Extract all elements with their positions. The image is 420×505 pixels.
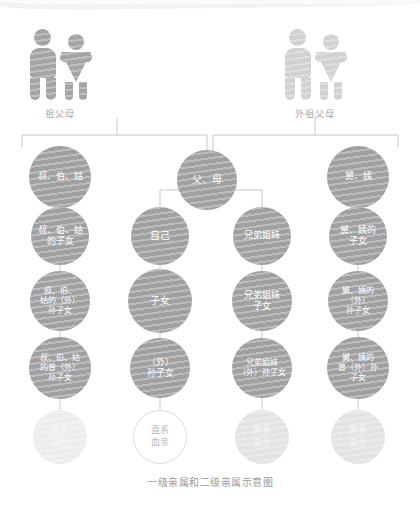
legend-node-label: 旁系血亲 [253,425,271,448]
legend-node: 直系血亲 [133,410,187,464]
relationship-node-label: 子女 [147,295,173,308]
legend-node: 旁系血亲 [235,410,289,464]
legend-node-label: 旁系血亲 [51,425,69,448]
man-icon [285,29,311,100]
relationship-node-label: （外）孙子女 [144,357,177,380]
relationship-node-label: 舅、姨的子女 [337,225,379,248]
relationship-node-label: 舅、姨 [342,171,375,182]
relationship-node: （外）孙子女 [130,338,190,398]
woman-icon [61,34,91,100]
legend-node-label: 旁系血亲 [349,425,367,448]
relationship-node-label: 叔、伯、姑的（外）孙子女 [37,286,83,316]
relationship-node: 兄弟姐妹 [233,207,291,265]
legend-node: 旁系血亲 [331,410,385,464]
relationship-node: 兄弟姐妹子女 [232,271,292,331]
man-icon [30,29,56,100]
legend-node-label: 直系血亲 [151,425,169,448]
relationship-node: 舅、姨的（外）孙子女 [328,271,388,331]
relationship-node: 叔、伯、姑的子女 [31,207,89,265]
maternal-grandparents-label: 外祖父母 [255,107,375,120]
relationship-node: 叔、伯、姑 [29,146,91,208]
relationship-node-label: 兄弟姐妹子女 [241,290,283,313]
legend-node: 旁系血亲 [33,410,87,464]
relationship-node: 舅、姨 [327,146,389,208]
relationship-node: 舅、姨的子女 [329,207,387,265]
paternal-grandparents-icon-group: 祖父母 [0,28,120,120]
top-wave-decoration [0,0,420,22]
relationship-node-label: 父、母 [189,174,225,187]
relationship-node: 叔、伯、姑的曾（外）孙子女 [29,337,91,399]
maternal-grandparents-icon-group: 外祖父母 [255,28,375,120]
relationship-node-label: 自己 [147,230,173,243]
relationship-node-label: 兄弟姐妹 [241,230,283,241]
relationship-node-label: 兄弟姐妹（外）孙子女 [235,358,289,378]
relationship-node: 自己 [131,207,189,265]
relationship-node-label: 叔、伯、姑 [35,171,86,182]
relationship-node-label: 叔、伯、姑的子女 [35,225,86,248]
kinship-diagram: 祖父母 外祖父母 父、母叔、伯、姑舅、姨叔、伯、姑的子女自己兄弟姐妹舅、姨的子女… [0,0,420,505]
paternal-grandparents-label: 祖父母 [0,107,120,120]
relationship-node: 父、母 [177,150,237,210]
relationship-node-label: 叔、伯、姑的曾（外）孙子女 [37,353,83,383]
relationship-node-label: 舅、姨的（外）孙子女 [339,286,377,316]
diagram-caption: 一级亲属和二级亲属示意图 [0,474,420,489]
relationship-node-label: 舅、姨的曾（外）孙子女 [335,353,381,383]
relationship-node: 舅、姨的曾（外）孙子女 [327,337,389,399]
woman-icon [316,34,346,100]
relationship-node: 子女 [128,269,192,333]
relationship-node: 叔、伯、姑的（外）孙子女 [30,271,90,331]
relationship-node: 兄弟姐妹（外）孙子女 [232,338,292,398]
